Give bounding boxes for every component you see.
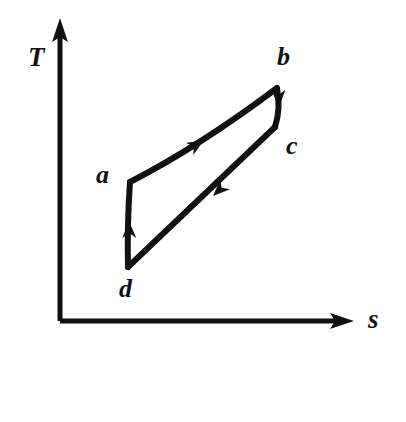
state-label-c: c: [286, 133, 298, 159]
cycle-direction-arrows: [122, 90, 286, 238]
entropy-axis-label: s: [368, 306, 379, 333]
cycle-path: [128, 88, 279, 267]
state-label-b: b: [277, 44, 290, 70]
ts-diagram-figure: T s a b c d: [0, 0, 406, 422]
segment-c-to-d: [128, 127, 275, 267]
ts-diagram-canvas: [0, 0, 406, 422]
entropy-axis: [60, 313, 354, 329]
state-label-d: d: [119, 276, 132, 302]
temperature-axis: [52, 18, 68, 321]
temperature-axis-label: T: [28, 44, 45, 71]
state-label-a: a: [96, 162, 109, 188]
segment-a-to-b: [130, 88, 277, 182]
